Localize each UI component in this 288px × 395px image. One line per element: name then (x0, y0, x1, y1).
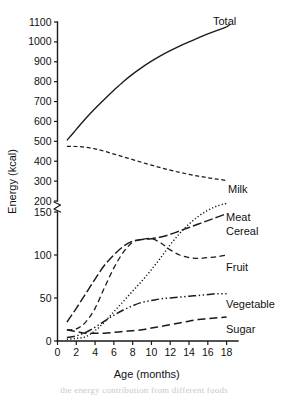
x-axis-tick-label: 8 (130, 346, 136, 358)
x-axis-tick-label: 18 (221, 346, 233, 358)
series-label-cereal: Cereal (226, 225, 258, 237)
figure-caption-text: the energy contribution from different f… (0, 386, 288, 395)
y-axis-tick-label: 100 (34, 249, 52, 261)
y-axis-tick-label: 900 (34, 55, 52, 67)
x-axis-tick-label: 12 (164, 346, 176, 358)
energy-intake-figure: 0501001502003004005006007008009001000110… (0, 0, 288, 395)
series-label-meat: Meat (226, 211, 250, 223)
series-line-total (67, 27, 227, 140)
series-label-fruit: Fruit (226, 261, 248, 273)
y-axis-tick-label: 800 (34, 75, 52, 87)
y-axis-tick-label: 700 (34, 95, 52, 107)
y-axis-tick-label: 300 (34, 175, 52, 187)
chart-series (67, 24, 231, 339)
figure-caption: the energy contribution from different f… (0, 386, 288, 395)
x-axis-tick-label: 2 (73, 346, 79, 358)
series-label-vegetable: Vegetable (226, 298, 275, 310)
series-line-cereal (67, 214, 227, 322)
series-line-sugar (67, 317, 227, 333)
y-axis-break-mark (54, 202, 61, 212)
y-axis-tick-label: 200 (34, 195, 52, 207)
chart-series-labels: TotalMilkMeatCerealFruitVegetableSugar (213, 15, 275, 335)
x-axis-tick-label: 4 (92, 346, 98, 358)
y-axis-tick-label: 0 (46, 335, 52, 347)
y-axis-tick-label: 1100 (29, 16, 52, 28)
y-axis-tick-label: 600 (34, 115, 52, 127)
x-axis-tick-label: 16 (202, 346, 214, 358)
y-axis-tick-label: 1000 (28, 35, 52, 47)
series-label-milk: Milk (228, 183, 248, 195)
chart-axes: 0501001502003004005006007008009001000110… (6, 16, 238, 380)
y-axis-tick-label: 500 (34, 135, 52, 147)
y-axis-tick-label: 400 (34, 155, 52, 167)
x-axis-tick-label: 0 (55, 346, 61, 358)
y-axis-title: Energy (kcal) (6, 149, 18, 214)
series-line-milk (67, 146, 227, 180)
series-line-fruit (67, 238, 227, 329)
line-chart: 0501001502003004005006007008009001000110… (0, 0, 288, 395)
x-axis-tick-label: 10 (146, 346, 158, 358)
x-axis-tick-label: 14 (183, 346, 195, 358)
series-label-sugar: Sugar (226, 323, 256, 335)
y-axis-tick-label: 150 (34, 206, 52, 218)
x-axis-tick-label: 6 (111, 346, 117, 358)
y-axis-tick-label: 50 (40, 292, 52, 304)
series-label-total: Total (213, 15, 236, 27)
x-axis-title: Age (months) (114, 368, 180, 380)
